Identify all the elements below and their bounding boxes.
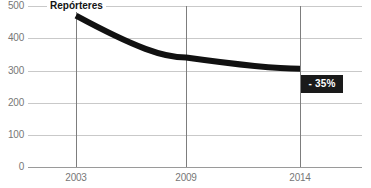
series-line-reporteres: [0, 0, 371, 188]
change-badge: - 35%: [301, 75, 343, 93]
series-title-label: Repórteres: [47, 0, 106, 12]
series-path-reporteres: [76, 16, 300, 69]
chart-container: 500 400 300 200 100 0 2003 2009 2014 Rep…: [0, 0, 371, 188]
